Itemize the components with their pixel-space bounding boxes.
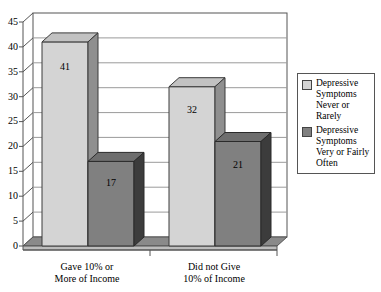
y-tick-label-35: 35 bbox=[0, 67, 18, 77]
legend-label-2-line4: Often bbox=[316, 158, 338, 168]
legend-label-2-line2: Symptoms bbox=[316, 136, 357, 146]
chart-legend: Depressive Symptoms Never or Rarely Depr… bbox=[297, 73, 375, 174]
legend-item-1[interactable]: Depressive Symptoms Never or Rarely bbox=[302, 78, 371, 122]
legend-swatch-icon-dark bbox=[302, 127, 312, 137]
legend-label-1-line3: Never or bbox=[316, 100, 350, 110]
legend-item-2[interactable]: Depressive Symptoms Very or Fairly Often bbox=[302, 125, 371, 169]
bar-g2-s2 bbox=[215, 133, 271, 247]
category-label-1-line2: More of Income bbox=[27, 273, 147, 285]
data-label-41: 41 bbox=[53, 62, 77, 72]
y-tick-label-20: 20 bbox=[0, 141, 18, 151]
category-label-2-line2: 10% of Income bbox=[154, 273, 274, 285]
y-tick-label-45: 45 bbox=[0, 17, 18, 27]
y-tick-label-5: 5 bbox=[0, 216, 18, 226]
bar-chart: 45 40 35 30 25 20 15 10 5 0 41 17 32 21 … bbox=[0, 0, 381, 292]
y-tick-label-10: 10 bbox=[0, 191, 18, 201]
category-label-1-line1: Gave 10% or bbox=[27, 261, 147, 273]
y-tick-label-25: 25 bbox=[0, 116, 18, 126]
data-label-21: 21 bbox=[226, 160, 250, 170]
legend-label-1-line2: Symptoms bbox=[316, 89, 357, 99]
plot-floor-lip bbox=[23, 246, 277, 250]
legend-label-2-line3: Very or Fairly bbox=[316, 147, 369, 157]
y-tick-connectors bbox=[19, 13, 33, 246]
legend-label-2-line1: Depressive bbox=[316, 125, 358, 135]
y-tick-label-15: 15 bbox=[0, 166, 18, 176]
legend-label-1-line4: Rarely bbox=[316, 111, 341, 121]
y-tick-label-0: 0 bbox=[0, 241, 18, 251]
category-label-2-line1: Did not Give bbox=[154, 261, 274, 273]
data-label-17: 17 bbox=[99, 178, 123, 188]
y-tick-label-40: 40 bbox=[0, 42, 18, 52]
y-tick-label-30: 30 bbox=[0, 92, 18, 102]
legend-label-2: Depressive Symptoms Very or Fairly Often bbox=[316, 125, 369, 169]
bar-g1-s2 bbox=[88, 152, 144, 246]
data-label-32: 32 bbox=[180, 105, 204, 115]
legend-label-1: Depressive Symptoms Never or Rarely bbox=[316, 78, 358, 122]
legend-swatch-icon-light bbox=[302, 80, 312, 90]
legend-label-1-line1: Depressive bbox=[316, 78, 358, 88]
